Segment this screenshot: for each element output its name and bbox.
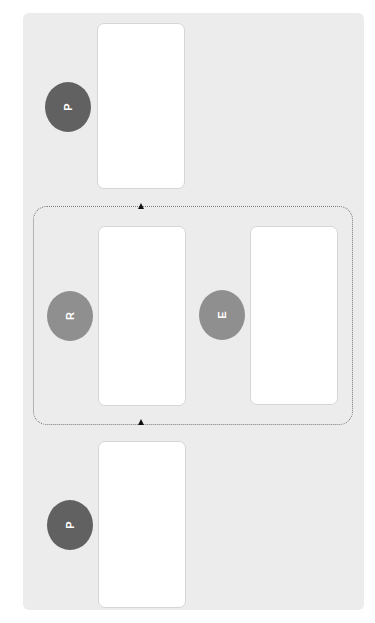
node-label: R [64,312,76,320]
arrow-up-icon [138,419,144,425]
card-p-top [97,23,185,189]
card-r [98,226,186,406]
card-e [250,226,338,405]
node-p-top: P [45,82,91,132]
arrow-up-icon [138,203,144,209]
node-label: P [64,521,76,528]
node-e: E [199,290,245,340]
node-p-bottom: P [47,500,93,550]
node-label: P [62,103,74,110]
node-r: R [47,291,93,341]
card-p-bottom [98,441,186,608]
node-label: E [216,311,228,318]
